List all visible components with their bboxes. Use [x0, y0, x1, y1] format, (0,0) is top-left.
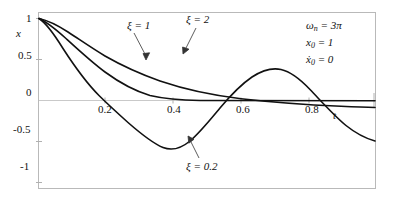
- xdot0-value: = 0: [318, 53, 334, 65]
- y-tick-label-0: 0: [26, 87, 32, 98]
- y-axis-label: x: [16, 28, 21, 39]
- y-tick-label-neg-1: -1: [20, 161, 29, 172]
- y-tick-label-0-5: 0.5: [18, 50, 32, 61]
- x-tick-label-0-4: 0.4: [167, 104, 181, 115]
- omega-subscript: n: [314, 24, 318, 33]
- x-tick-label-0-8: 0.8: [305, 104, 319, 115]
- x-axis-label: t: [333, 110, 336, 121]
- y-tick-label-1: 1: [26, 13, 32, 24]
- x-tick-label-0-2: 0.2: [98, 104, 112, 115]
- y-tick-label-neg-0-5: -0.5: [13, 124, 30, 135]
- omega-value: = 3π: [321, 19, 342, 31]
- xdot0-subscript: 0: [311, 58, 315, 67]
- x0-subscript: 0: [311, 41, 315, 50]
- curve-label-xi-0-2: ξ = 0.2: [186, 161, 217, 172]
- curve-label-xi-2: ξ = 2: [186, 14, 209, 25]
- chart-figure: 1 0.5 0 -0.5 -1 0.2 0.4 0.6 0.8 t x ξ = …: [0, 0, 398, 200]
- curve-label-xi-1: ξ = 1: [127, 20, 150, 31]
- omega-symbol: ω: [306, 19, 314, 31]
- parameter-x0: x0 = 1: [306, 37, 333, 50]
- parameter-xdot0: ẋ0 = 0: [306, 54, 333, 67]
- x0-value: = 1: [318, 36, 334, 48]
- x-tick-label-0-6: 0.6: [236, 104, 250, 115]
- parameter-omega-n: ωn = 3π: [306, 20, 342, 33]
